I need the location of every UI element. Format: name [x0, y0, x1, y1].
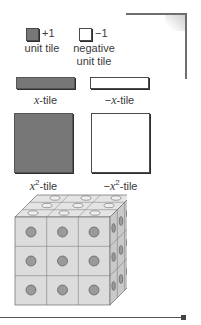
x2-tile-label: x2-tile — [14, 180, 73, 193]
neg-x2-tile-label: −x2-tile — [91, 180, 150, 193]
corner-shade — [165, 15, 185, 31]
corner-rule-horizontal — [126, 13, 186, 15]
x-tile-label: x-tile — [16, 94, 75, 107]
unit-tile-label: unit tile — [18, 42, 66, 55]
neg-x-tile-label: −x-tile — [90, 94, 149, 107]
corner-rule-vertical — [185, 13, 187, 79]
neg-x2-tile-swatch — [91, 113, 150, 173]
x-tile-swatch — [16, 77, 75, 89]
unit-tile-swatch — [26, 28, 39, 41]
negative-unit-tile-swatch — [79, 28, 92, 41]
negative-unit-tile-label-2: unit tile — [70, 55, 118, 68]
negative-unit-tile-label-1: negative — [70, 42, 118, 55]
bottom-rule-endcap — [181, 315, 186, 320]
unit-tile-symbol: +1 — [42, 27, 55, 40]
negative-unit-tile-symbol: −1 — [95, 27, 108, 40]
neg-x-tile-swatch — [90, 77, 149, 89]
connecting-cube-figure — [12, 194, 127, 312]
x2-tile-swatch — [14, 113, 73, 173]
bottom-rule — [0, 317, 184, 318]
